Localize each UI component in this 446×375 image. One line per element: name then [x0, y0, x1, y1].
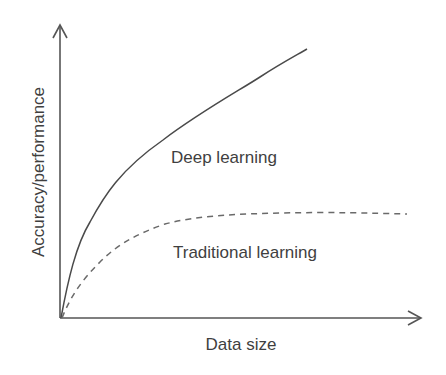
y-axis — [53, 25, 67, 318]
traditional-learning-curve — [62, 213, 407, 318]
x-axis — [60, 311, 421, 325]
diagram-canvas: Deep learning Traditional learning Data … — [0, 0, 446, 375]
deep-learning-curve — [61, 49, 307, 318]
deep-learning-label: Deep learning — [171, 148, 277, 167]
y-axis-label: Accuracy/performance — [29, 87, 48, 257]
x-axis-label: Data size — [206, 335, 277, 354]
traditional-learning-label: Traditional learning — [173, 243, 317, 262]
